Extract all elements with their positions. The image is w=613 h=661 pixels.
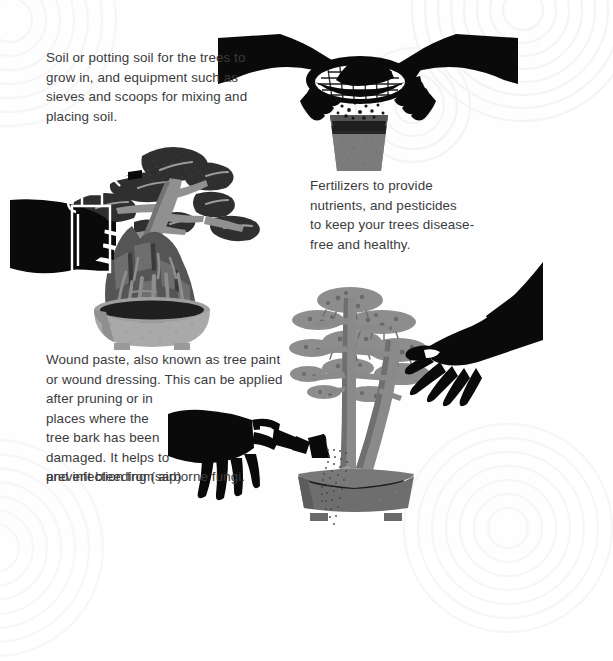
watering-can-rose: [272, 428, 330, 459]
oval-bowl-pot: [94, 297, 210, 350]
mesh-sieve: [306, 56, 414, 104]
caption-soil-and-equipment: Soil or potting soil for the trees to gr…: [46, 48, 278, 126]
plastic-pot: [330, 115, 388, 171]
illustration-misting-bonsai: [10, 140, 290, 355]
hand-silhouette-applying-paste: [405, 262, 543, 406]
foliage-pads: [289, 287, 430, 402]
caption-wound-paste-intro: Wound paste, also known as tree paint or…: [46, 350, 284, 389]
water-stream-dots: [321, 449, 348, 525]
caption-fertilizers-and-pesticides: Fertilizers to provide nutrients, and pe…: [310, 176, 510, 254]
caption-wound-paste-closing: and infection from airborne fungi.: [46, 467, 306, 487]
